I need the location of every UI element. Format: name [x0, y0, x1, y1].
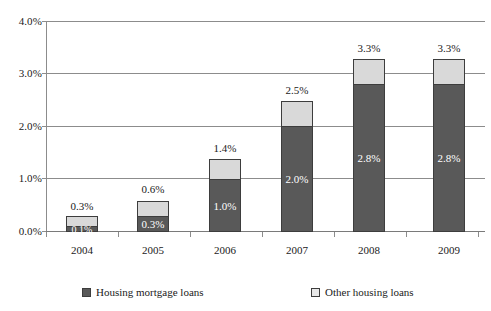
- bar-segment-label-mortgage-2009: 2.8%: [434, 153, 464, 164]
- legend-swatch-dark-icon: [82, 288, 91, 297]
- x-label-2008: 2008: [339, 244, 399, 256]
- x-tick-mark-5: [406, 232, 407, 237]
- bar-total-label-2004: 0.3%: [56, 201, 108, 212]
- bar-stack-2005: 0.3%: [137, 201, 169, 232]
- legend-label-housing-mortgage-loans: Housing mortgage loans: [96, 286, 204, 298]
- x-label-2005: 2005: [123, 244, 183, 256]
- x-tick-mark-2: [190, 232, 191, 237]
- legend-swatch-light-icon: [311, 288, 320, 297]
- y-tick-label-1: 1.0%: [2, 173, 42, 184]
- legend-item-other-housing-loans[interactable]: Other housing loans: [311, 286, 414, 298]
- bar-total-label-2007: 2.5%: [271, 85, 323, 96]
- bar-segment-mortgage-2009[interactable]: 2.8%: [433, 84, 465, 232]
- y-tick-label-4: 4.0%: [2, 16, 42, 27]
- bar-segment-label-mortgage-2008: 2.8%: [354, 153, 384, 164]
- bar-segment-label-mortgage-2006: 1.0%: [210, 200, 240, 211]
- x-tick-mark-0: [46, 232, 47, 237]
- x-label-2007: 2007: [267, 244, 327, 256]
- x-axis-ticks: [46, 232, 485, 238]
- bar-segment-other-2009[interactable]: [433, 59, 465, 85]
- bar-segment-mortgage-2007[interactable]: 2.0%: [281, 126, 313, 232]
- bar-stack-2006: 1.0%: [209, 159, 241, 232]
- bar-group-2005[interactable]: 0.6% 0.3%: [137, 201, 169, 231]
- stacked-bar-chart: 4.0% 3.0% 2.0% 1.0% 0.0% 0.3% 0.1%: [0, 0, 491, 311]
- bar-segment-other-2005[interactable]: [137, 201, 169, 217]
- y-axis: 4.0% 3.0% 2.0% 1.0% 0.0%: [0, 21, 42, 232]
- bar-segment-other-2006[interactable]: [209, 159, 241, 180]
- x-tick-mark-3: [262, 232, 263, 237]
- y-tick-label-0: 0.0%: [2, 226, 42, 237]
- bar-segment-other-2007[interactable]: [281, 101, 313, 127]
- bar-total-label-2005: 0.6%: [127, 184, 179, 195]
- bar-group-2008[interactable]: 3.3% 2.8%: [353, 59, 385, 231]
- x-label-2006: 2006: [195, 244, 255, 256]
- x-tick-mark-6: [478, 232, 479, 237]
- bar-segment-mortgage-2006[interactable]: 1.0%: [209, 179, 241, 232]
- bar-group-2004[interactable]: 0.3% 0.1%: [66, 216, 98, 231]
- bars-layer: 0.3% 0.1% 0.6% 0.3% 1.4% 1.0%: [46, 21, 485, 232]
- chart-legend: Housing mortgage loans Other housing loa…: [0, 286, 491, 302]
- bar-segment-mortgage-2008[interactable]: 2.8%: [353, 84, 385, 232]
- y-tick-label-3: 3.0%: [2, 68, 42, 79]
- bar-stack-2007: 2.0%: [281, 101, 313, 232]
- legend-item-housing-mortgage-loans[interactable]: Housing mortgage loans: [82, 286, 204, 298]
- x-label-2004: 2004: [52, 244, 112, 256]
- bar-stack-2004: 0.1%: [66, 216, 98, 232]
- bar-stack-2008: 2.8%: [353, 59, 385, 232]
- bar-total-label-2006: 1.4%: [199, 143, 251, 154]
- bar-group-2006[interactable]: 1.4% 1.0%: [209, 159, 241, 231]
- y-tick-label-2: 2.0%: [2, 121, 42, 132]
- x-tick-mark-1: [118, 232, 119, 237]
- x-axis-labels: 2004 2005 2006 2007 2008 2009: [46, 244, 485, 260]
- bar-segment-mortgage-2005[interactable]: 0.3%: [137, 216, 169, 232]
- bar-segment-label-mortgage-2005: 0.3%: [138, 219, 168, 230]
- bar-total-label-2009: 3.3%: [423, 43, 475, 54]
- bar-group-2007[interactable]: 2.5% 2.0%: [281, 101, 313, 231]
- x-label-2009: 2009: [419, 244, 479, 256]
- bar-segment-label-mortgage-2007: 2.0%: [282, 174, 312, 185]
- bar-stack-2009: 2.8%: [433, 59, 465, 232]
- bar-total-label-2008: 3.3%: [343, 43, 395, 54]
- legend-label-other-housing-loans: Other housing loans: [325, 286, 414, 298]
- x-tick-mark-4: [334, 232, 335, 237]
- bar-group-2009[interactable]: 3.3% 2.8%: [433, 59, 465, 231]
- bar-segment-other-2008[interactable]: [353, 59, 385, 85]
